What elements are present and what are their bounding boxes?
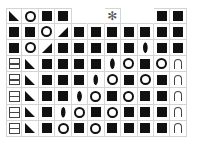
board-cell[interactable] [55, 88, 71, 104]
board-cell[interactable] [22, 121, 38, 137]
board-cell[interactable] [55, 105, 71, 121]
square-tile-icon [124, 123, 134, 133]
square-tile-icon [91, 59, 101, 69]
board-cell[interactable] [72, 121, 88, 137]
square-tile-icon [124, 107, 134, 117]
board-cell[interactable] [121, 105, 137, 121]
board-cell[interactable] [88, 88, 104, 104]
board-cell[interactable] [6, 56, 22, 72]
board-cell[interactable] [138, 72, 154, 88]
board-cell [72, 8, 88, 24]
board-cell[interactable] [170, 105, 186, 121]
board-cell[interactable] [105, 56, 121, 72]
board-cell[interactable] [72, 40, 88, 56]
board-cell[interactable] [170, 8, 186, 24]
board-cell[interactable] [121, 72, 137, 88]
board-cell[interactable] [105, 40, 121, 56]
board-cell[interactable] [170, 72, 186, 88]
board-cell[interactable] [55, 72, 71, 88]
board-cell[interactable] [72, 72, 88, 88]
board-cell[interactable] [39, 88, 55, 104]
board-cell[interactable] [39, 40, 55, 56]
board-cell[interactable]: ✻ [105, 8, 121, 24]
board-cell[interactable] [22, 105, 38, 121]
board-cell[interactable] [72, 56, 88, 72]
board-cell[interactable] [154, 56, 170, 72]
board-cell[interactable] [22, 72, 38, 88]
square-tile-icon [157, 75, 167, 85]
board-cell[interactable] [154, 88, 170, 104]
square-tile-icon [140, 123, 150, 133]
board-cell[interactable] [39, 72, 55, 88]
board-cell[interactable] [6, 121, 22, 137]
board-cell[interactable] [6, 8, 22, 24]
board-cell[interactable] [154, 72, 170, 88]
board-cell[interactable] [138, 24, 154, 40]
board-cell[interactable] [88, 40, 104, 56]
board-cell[interactable] [88, 72, 104, 88]
board-cell[interactable] [170, 40, 186, 56]
board-cell[interactable] [105, 121, 121, 137]
board-cell[interactable] [121, 40, 137, 56]
square-tile-icon [107, 27, 117, 37]
board-cell[interactable] [22, 88, 38, 104]
board-cell[interactable] [154, 24, 170, 40]
lens-tile-icon [143, 42, 148, 53]
board-cell[interactable] [105, 105, 121, 121]
board-cell[interactable] [88, 24, 104, 40]
board-cell[interactable] [6, 88, 22, 104]
circle-tile-icon [90, 91, 101, 102]
board-cell[interactable] [138, 40, 154, 56]
board-cell[interactable] [105, 24, 121, 40]
board-cell[interactable] [39, 8, 55, 24]
board-cell[interactable] [55, 56, 71, 72]
square-tile-icon [157, 123, 167, 133]
board-cell[interactable] [170, 121, 186, 137]
board-cell[interactable] [105, 72, 121, 88]
board-cell[interactable] [88, 121, 104, 137]
board-cell[interactable] [138, 105, 154, 121]
board-cell[interactable] [121, 24, 137, 40]
board-cell[interactable] [55, 8, 71, 24]
board-cell[interactable] [154, 121, 170, 137]
board-cell[interactable] [88, 56, 104, 72]
board-cell[interactable] [39, 105, 55, 121]
board-cell[interactable] [154, 105, 170, 121]
board-cell[interactable] [121, 121, 137, 137]
board-cell[interactable] [88, 105, 104, 121]
board-cell[interactable] [6, 40, 22, 56]
board-cell[interactable] [39, 24, 55, 40]
board-cell[interactable] [121, 88, 137, 104]
board-cell[interactable] [39, 56, 55, 72]
square-tile-icon [74, 75, 84, 85]
board-row [6, 40, 187, 56]
board-cell[interactable] [138, 88, 154, 104]
board-cell[interactable] [105, 88, 121, 104]
square-tile-icon [124, 75, 134, 85]
board-cell[interactable] [121, 56, 137, 72]
square-tile-icon [58, 59, 68, 69]
board-cell[interactable] [6, 105, 22, 121]
board-cell[interactable] [6, 24, 22, 40]
board-cell[interactable] [55, 40, 71, 56]
board-cell[interactable] [170, 88, 186, 104]
board-cell[interactable] [22, 24, 38, 40]
board-cell[interactable] [72, 24, 88, 40]
board-cell[interactable] [55, 24, 71, 40]
board-cell[interactable] [39, 121, 55, 137]
board-cell[interactable] [22, 40, 38, 56]
board-cell[interactable] [72, 105, 88, 121]
board-cell[interactable] [72, 88, 88, 104]
board-cell[interactable] [154, 40, 170, 56]
board-cell[interactable] [138, 121, 154, 137]
board-cell[interactable] [22, 8, 38, 24]
board-cell[interactable] [170, 56, 186, 72]
board-cell[interactable] [55, 121, 71, 137]
board-cell[interactable] [22, 56, 38, 72]
board-cell[interactable] [6, 72, 22, 88]
board-cell[interactable] [170, 24, 186, 40]
board-cell [138, 8, 154, 24]
board-cell[interactable] [138, 56, 154, 72]
board-cell[interactable] [154, 8, 170, 24]
square-tile-icon [91, 107, 101, 117]
